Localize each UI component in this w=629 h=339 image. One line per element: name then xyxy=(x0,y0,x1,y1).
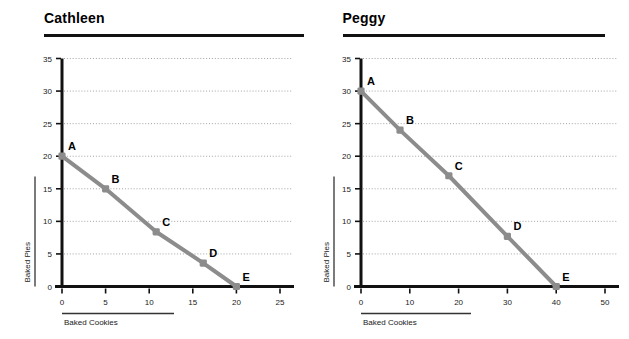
data-point-label: E xyxy=(242,271,249,283)
data-point-marker[interactable] xyxy=(233,283,240,290)
data-point-marker[interactable] xyxy=(357,87,364,94)
y-axis-tick-label: 10 xyxy=(43,217,52,226)
y-axis-tick-label: 30 xyxy=(342,87,351,96)
data-point-marker[interactable] xyxy=(153,228,160,235)
data-point-marker[interactable] xyxy=(552,283,559,290)
plot-area-peggy: 0510152025303501020304050ABCDEBaked Cook… xyxy=(315,0,629,339)
data-point-label: E xyxy=(562,271,569,283)
x-axis-tick-label: 20 xyxy=(232,298,241,307)
y-axis-tick-label: 15 xyxy=(342,185,351,194)
y-axis-tick-label: 35 xyxy=(43,55,52,64)
data-point-label: A xyxy=(367,75,375,87)
x-axis-title: Baked Cookies xyxy=(363,318,417,327)
data-point-label: D xyxy=(209,247,217,259)
x-axis-tick-label: 10 xyxy=(405,298,414,307)
plot-area-cathleen: 051015202530350510152025ABCDEBaked Cooki… xyxy=(0,0,314,339)
data-point-label: B xyxy=(112,173,120,185)
x-axis-tick-label: 30 xyxy=(502,298,511,307)
y-axis-tick-label: 20 xyxy=(43,152,52,161)
x-axis-tick-label: 40 xyxy=(551,298,560,307)
y-axis-tick-label: 25 xyxy=(342,120,351,129)
data-point-marker[interactable] xyxy=(396,127,403,134)
y-axis-title: Baked Pies xyxy=(322,242,331,282)
x-axis-title: Baked Cookies xyxy=(64,318,118,327)
data-point-marker[interactable] xyxy=(200,259,207,266)
data-point-label: C xyxy=(162,216,170,228)
chart-panel-cathleen: Cathleen 051015202530350510152025ABCDEBa… xyxy=(0,0,315,339)
y-axis-tick-label: 5 xyxy=(48,250,53,259)
x-axis-tick-label: 5 xyxy=(103,298,108,307)
data-point-label: A xyxy=(68,140,76,152)
x-axis-tick-label: 0 xyxy=(60,298,65,307)
y-axis-tick-label: 30 xyxy=(43,87,52,96)
y-axis-tick-label: 35 xyxy=(342,55,351,64)
x-axis-tick-label: 15 xyxy=(188,298,197,307)
data-point-label: D xyxy=(513,220,521,232)
x-axis-tick-label: 0 xyxy=(358,298,363,307)
y-axis-tick-label: 10 xyxy=(342,217,351,226)
y-axis-tick-label: 20 xyxy=(342,152,351,161)
y-axis-tick-label: 15 xyxy=(43,185,52,194)
data-point-marker[interactable] xyxy=(102,185,109,192)
x-axis-tick-label: 10 xyxy=(145,298,154,307)
data-point-marker[interactable] xyxy=(58,153,65,160)
y-axis-tick-label: 5 xyxy=(346,250,351,259)
data-point-label: C xyxy=(454,160,462,172)
x-axis-tick-label: 25 xyxy=(276,298,285,307)
chart-panel-peggy: Peggy 0510152025303501020304050ABCDEBake… xyxy=(315,0,629,339)
y-axis-tick-label: 25 xyxy=(43,120,52,129)
data-point-label: B xyxy=(406,114,414,126)
chart-page: Cathleen 051015202530350510152025ABCDEBa… xyxy=(0,0,629,339)
data-point-marker[interactable] xyxy=(503,233,510,240)
data-point-marker[interactable] xyxy=(445,172,452,179)
y-axis-tick-label: 0 xyxy=(48,283,53,292)
y-axis-title: Baked Pies xyxy=(23,242,32,282)
x-axis-tick-label: 50 xyxy=(600,298,609,307)
y-axis-tick-label: 0 xyxy=(346,283,351,292)
data-line xyxy=(361,91,556,286)
x-axis-tick-label: 20 xyxy=(454,298,463,307)
